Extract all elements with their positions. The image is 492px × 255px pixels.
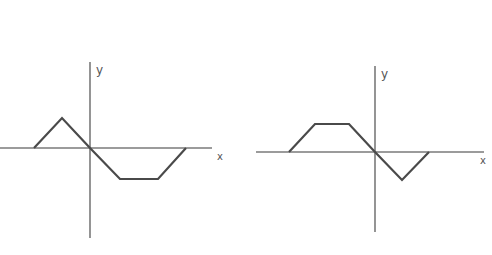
y-label-right: y <box>381 67 388 81</box>
x-label-right: x <box>480 155 486 166</box>
x-label-left: x <box>217 151 223 162</box>
diagram-canvas: y x y x <box>0 0 492 255</box>
graph-left: y x <box>0 62 223 238</box>
graph-right: y x <box>256 66 486 232</box>
y-label-left: y <box>96 63 103 77</box>
graphs-svg: y x y x <box>0 0 492 255</box>
